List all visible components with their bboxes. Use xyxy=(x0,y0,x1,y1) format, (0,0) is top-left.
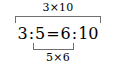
proportion-diagram: 3×10 3:5=6:10 5×6 xyxy=(0,0,116,67)
proportion-equation: 3:5=6:10 xyxy=(0,24,116,44)
equals-sign: = xyxy=(45,24,60,44)
inner-product-label: 5×6 xyxy=(0,51,116,64)
inner-terms-bracket xyxy=(33,43,74,50)
left-consequent: 5 xyxy=(35,24,45,44)
right-antecedent: 6 xyxy=(61,24,71,44)
right-ratio-colon: : xyxy=(71,24,78,44)
left-antecedent: 3 xyxy=(17,24,27,44)
outer-terms-bracket xyxy=(15,16,101,23)
outer-product-label: 3×10 xyxy=(0,1,116,14)
left-ratio-colon: : xyxy=(28,24,35,44)
right-consequent: 10 xyxy=(78,24,98,44)
